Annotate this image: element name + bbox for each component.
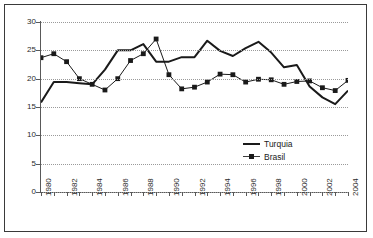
data-point-brasil-1981 bbox=[51, 51, 56, 56]
legend-swatch-line bbox=[243, 139, 260, 149]
x-tick-label-1984: 1984 bbox=[96, 178, 104, 196]
data-point-brasil-1994 bbox=[218, 72, 223, 77]
legend-label-brasil: Brasil bbox=[264, 152, 285, 162]
x-tick-mark-1981 bbox=[54, 192, 55, 196]
x-tick-mark-1991 bbox=[182, 192, 183, 196]
x-tick-label-1986: 1986 bbox=[122, 178, 130, 196]
data-point-brasil-1989 bbox=[154, 37, 159, 42]
legend-item-brasil: Brasil bbox=[243, 150, 293, 163]
gridline-5 bbox=[41, 164, 348, 165]
data-point-brasil-1987 bbox=[128, 58, 133, 63]
y-axis-labels: 051015202530 bbox=[12, 0, 36, 238]
gridline-15 bbox=[41, 107, 348, 108]
x-tick-mark-1989 bbox=[156, 192, 157, 196]
legend-label-turquia: Turquia bbox=[264, 139, 293, 149]
data-point-brasil-1993 bbox=[205, 80, 210, 85]
data-point-brasil-1985 bbox=[103, 88, 108, 93]
x-tick-label-1994: 1994 bbox=[224, 178, 232, 196]
x-tick-mark-2000 bbox=[297, 192, 298, 196]
data-point-brasil-1999 bbox=[282, 82, 287, 87]
data-point-brasil-1995 bbox=[230, 72, 235, 77]
data-point-brasil-2003 bbox=[333, 88, 338, 93]
x-tick-mark-2001 bbox=[310, 192, 311, 196]
data-point-brasil-2002 bbox=[320, 85, 325, 90]
x-tick-label-1980: 1980 bbox=[45, 178, 53, 196]
x-tick-label-1990: 1990 bbox=[173, 178, 181, 196]
x-tick-label-2000: 2000 bbox=[301, 178, 309, 196]
x-tick-label-1992: 1992 bbox=[199, 178, 207, 196]
y-tick-label-30: 30 bbox=[14, 18, 36, 26]
x-tick-mark-1993 bbox=[207, 192, 208, 196]
x-tick-mark-1988 bbox=[143, 192, 144, 196]
gridline-30 bbox=[41, 22, 348, 23]
x-tick-label-2004: 2004 bbox=[352, 178, 360, 196]
data-point-brasil-1992 bbox=[192, 85, 197, 90]
data-point-brasil-1982 bbox=[64, 59, 69, 64]
x-tick-mark-1996 bbox=[246, 192, 247, 196]
data-point-brasil-1984 bbox=[90, 82, 95, 87]
gridline-20 bbox=[41, 79, 348, 80]
x-tick-mark-1999 bbox=[284, 192, 285, 196]
y-tick-label-0: 0 bbox=[14, 188, 36, 196]
chart-legend: Turquia Brasil bbox=[243, 137, 293, 163]
chart-container: 051015202530 198019821984198619881990199… bbox=[0, 0, 373, 238]
x-tick-mark-1987 bbox=[131, 192, 132, 196]
x-tick-mark-1983 bbox=[79, 192, 80, 196]
x-tick-mark-2003 bbox=[335, 192, 336, 196]
x-tick-mark-1990 bbox=[169, 192, 170, 196]
x-tick-mark-1985 bbox=[105, 192, 106, 196]
x-tick-mark-1982 bbox=[67, 192, 68, 196]
data-point-brasil-1990 bbox=[167, 72, 172, 77]
legend-swatch-line-square bbox=[243, 152, 260, 162]
y-tick-mark-20 bbox=[36, 79, 41, 80]
x-tick-mark-1995 bbox=[233, 192, 234, 196]
x-tick-mark-1980 bbox=[41, 192, 42, 196]
x-tick-label-1982: 1982 bbox=[71, 178, 79, 196]
y-tick-mark-25 bbox=[36, 50, 41, 51]
data-point-brasil-2000 bbox=[294, 79, 299, 84]
data-point-brasil-1991 bbox=[179, 86, 184, 91]
x-tick-mark-1992 bbox=[195, 192, 196, 196]
plot-area bbox=[41, 22, 348, 192]
gridline-10 bbox=[41, 135, 348, 136]
y-tick-mark-0 bbox=[36, 192, 41, 193]
x-tick-label-2002: 2002 bbox=[326, 178, 334, 196]
legend-item-turquia: Turquia bbox=[243, 137, 293, 150]
data-point-brasil-1996 bbox=[243, 80, 248, 85]
x-tick-mark-1997 bbox=[258, 192, 259, 196]
x-tick-mark-2002 bbox=[322, 192, 323, 196]
y-tick-label-5: 5 bbox=[14, 160, 36, 168]
data-point-brasil-1980 bbox=[41, 55, 43, 60]
y-tick-mark-5 bbox=[36, 164, 41, 165]
y-tick-mark-10 bbox=[36, 135, 41, 136]
y-tick-label-10: 10 bbox=[14, 131, 36, 139]
x-tick-mark-2004 bbox=[348, 192, 349, 196]
gridline-25 bbox=[41, 50, 348, 51]
x-tick-label-1988: 1988 bbox=[147, 178, 155, 196]
y-tick-label-20: 20 bbox=[14, 75, 36, 83]
x-tick-mark-1994 bbox=[220, 192, 221, 196]
y-tick-label-15: 15 bbox=[14, 103, 36, 111]
x-tick-mark-1986 bbox=[118, 192, 119, 196]
y-tick-mark-30 bbox=[36, 22, 41, 23]
y-tick-mark-15 bbox=[36, 107, 41, 108]
series-line-brasil bbox=[41, 39, 348, 91]
data-point-brasil-1988 bbox=[141, 51, 146, 56]
x-tick-label-1996: 1996 bbox=[250, 178, 258, 196]
y-tick-label-25: 25 bbox=[14, 46, 36, 54]
x-tick-mark-1998 bbox=[271, 192, 272, 196]
x-tick-mark-1984 bbox=[92, 192, 93, 196]
x-tick-label-1998: 1998 bbox=[275, 178, 283, 196]
